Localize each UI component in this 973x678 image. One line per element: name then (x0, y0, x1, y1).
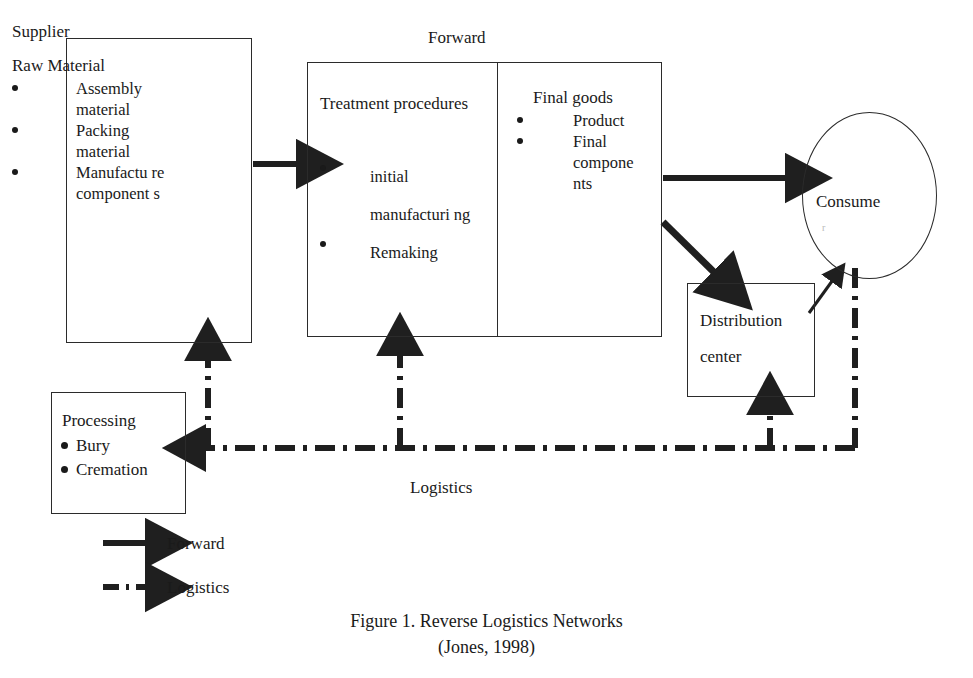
final-goods-bullet-list: Product Final compone nts (513, 110, 648, 194)
list-item-label: Packing material (76, 120, 184, 162)
list-item: initial manufacturi ng (316, 158, 491, 234)
bullet-dot-icon (61, 466, 68, 473)
bullet-dot-icon (61, 442, 68, 449)
figure-caption: Figure 1. Reverse Logistics Networks (Jo… (0, 608, 973, 660)
bullet-dot-icon (320, 165, 326, 171)
bullet-dot-icon (12, 169, 18, 175)
list-item: Remaking (316, 234, 491, 272)
list-item: Final compone nts (513, 131, 648, 194)
list-item: Bury (60, 434, 182, 458)
processing-bullet-list: Bury Cremation (60, 434, 182, 482)
treatment-title: Treatment procedures (320, 88, 470, 119)
list-item-label: Manufactu re component s (76, 162, 184, 204)
arrow-finalgoods-to-distribution (663, 222, 723, 281)
caption-line-2: (Jones, 1998) (0, 635, 973, 660)
processing-title: Processing (62, 411, 136, 431)
list-item: Cremation (60, 458, 182, 482)
list-item: Product (513, 110, 648, 131)
list-item-label: Assembly material (76, 78, 184, 120)
list-item-label: initial manufacturi ng (370, 158, 491, 234)
bullet-dot-icon (320, 241, 326, 247)
list-item-label: Remaking (370, 234, 491, 272)
box-divider (497, 62, 498, 337)
list-item: Assembly material (8, 78, 184, 120)
figure-canvas: Supplier Raw Material Assembly material … (0, 0, 973, 678)
list-item-label: Final compone nts (573, 131, 648, 194)
supplier-subtitle: Raw Material (12, 56, 105, 76)
list-item-label: Cremation (76, 458, 182, 482)
distribution-center-label-line1: Distribution (700, 311, 782, 331)
consumer-label-wrap: r (822, 222, 825, 233)
bullet-dot-icon (517, 138, 523, 144)
distribution-center-label-line2: center (700, 347, 742, 367)
legend-item-logistics-label: Logistics (167, 578, 229, 598)
forward-flow-label: Forward (428, 28, 486, 48)
consumer-label: Consume (816, 192, 880, 212)
list-item: Packing material (8, 120, 184, 162)
list-item: Manufactu re component s (8, 162, 184, 204)
list-item-label: Bury (76, 434, 182, 458)
supplier-bullet-list: Assembly material Packing material Manuf… (8, 78, 184, 204)
final-goods-title: Final goods (533, 88, 613, 108)
list-item-label: Product (573, 110, 648, 131)
legend-item-forward-label: Forward (167, 534, 225, 554)
bullet-dot-icon (12, 85, 18, 91)
logistics-flow-label: Logistics (410, 478, 472, 498)
bullet-dot-icon (517, 117, 523, 123)
bullet-dot-icon (12, 127, 18, 133)
treatment-bullet-list: initial manufacturi ng Remaking (316, 158, 491, 272)
caption-line-1: Figure 1. Reverse Logistics Networks (0, 608, 973, 635)
supplier-title: Supplier (12, 22, 70, 42)
distribution-center-box (687, 283, 815, 397)
